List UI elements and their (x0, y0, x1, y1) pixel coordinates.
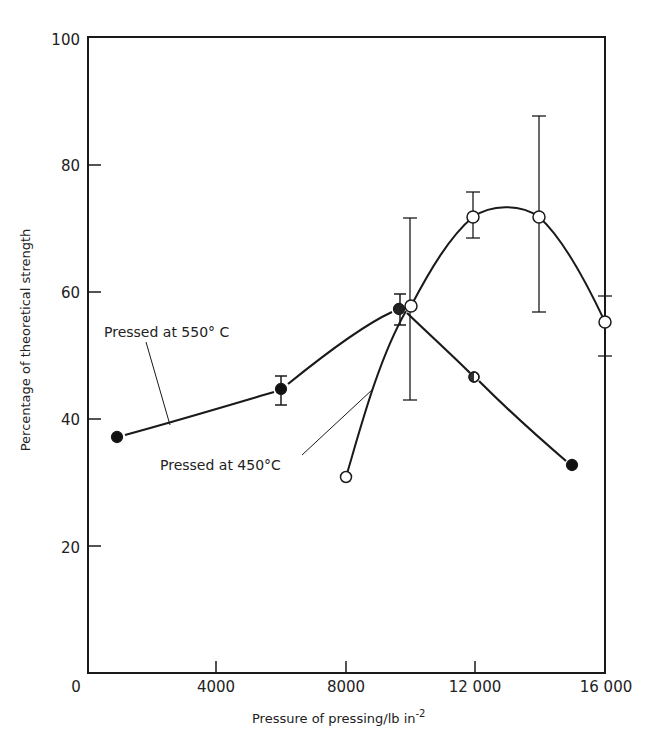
marker-450-8000 (341, 472, 352, 483)
y-tick-label-40: 40 (61, 411, 80, 429)
series-450-markers (341, 211, 612, 483)
y-tick-label-20: 20 (61, 539, 80, 557)
marker-550-1000 (112, 432, 123, 443)
y-tick-label-100: 100 (51, 31, 80, 49)
y-axis-ticks (88, 165, 101, 546)
label-450: Pressed at 450°C (160, 457, 281, 473)
x-tick-label-0: 0 (71, 678, 81, 696)
x-tick-labels: 0 4000 8000 12 000 16 000 (71, 678, 632, 696)
series-450-curve (346, 207, 605, 477)
marker-450-10000 (405, 300, 417, 312)
y-tick-labels: 100 80 60 40 20 (51, 31, 80, 557)
x-axis-title: Pressure of pressing/lb in-2 (252, 708, 425, 726)
y-axis-title: Percentage of theoretical strength (18, 229, 33, 452)
leader-line-550 (146, 342, 170, 425)
x-tick-label-8000: 8000 (327, 678, 365, 696)
y-tick-label-60: 60 (61, 284, 80, 302)
plot-frame (88, 37, 605, 673)
series-450-error-bars (403, 116, 612, 400)
marker-550-9700 (394, 304, 405, 315)
x-tick-label-16000: 16 000 (580, 678, 633, 696)
marker-550-15000 (567, 460, 578, 471)
marker-450-16000 (599, 316, 611, 328)
y-tick-label-80: 80 (61, 157, 80, 175)
x-axis-ticks (216, 661, 475, 673)
x-tick-label-12000: 12 000 (449, 678, 502, 696)
strength-vs-pressure-chart: 100 80 60 40 20 0 4000 8000 12 000 16 00… (0, 0, 648, 741)
marker-550-6000 (276, 384, 287, 395)
marker-550-12000-half-filled (469, 372, 479, 382)
marker-450-14000 (533, 211, 545, 223)
marker-450-12000 (467, 211, 479, 223)
label-550: Pressed at 550° C (104, 324, 229, 340)
x-tick-label-4000: 4000 (197, 678, 235, 696)
